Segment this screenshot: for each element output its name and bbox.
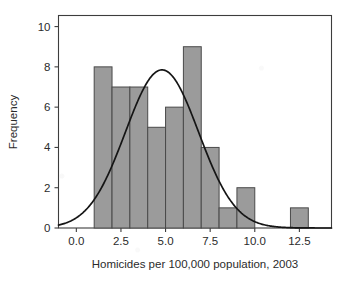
y-tick-label: 0 [44,222,50,234]
histogram-bar [94,67,112,228]
y-tick-label: 8 [44,61,50,73]
histogram-bar [148,127,166,228]
histogram-bar [130,87,148,228]
y-tick-label: 4 [44,141,51,153]
histogram-bar [290,208,308,228]
x-tick-label: 2.5 [113,235,129,247]
histogram-bar [166,107,184,228]
x-tick-label: 10.0 [244,235,266,247]
y-tick-label: 6 [44,101,50,113]
x-axis-title: Homicides per 100,000 population, 2003 [92,258,299,270]
x-tick-label: 12.5 [288,235,310,247]
y-tick-label: 2 [44,182,50,194]
histogram-bar [237,188,255,228]
histogram-figure: 0246810 0.02.55.07.510.012.5 Homicides p… [0,0,344,284]
y-axis-title: Frequency [7,95,19,150]
chart-canvas: 0246810 0.02.55.07.510.012.5 Homicides p… [0,0,344,284]
histogram-bar [183,47,201,228]
x-tick-label: 7.5 [202,235,218,247]
y-tick-label: 10 [38,21,51,33]
x-tick-label: 0.0 [68,235,84,247]
histogram-bar [219,208,237,228]
x-tick-label: 5.0 [158,235,174,247]
